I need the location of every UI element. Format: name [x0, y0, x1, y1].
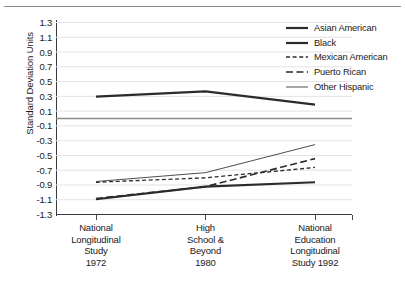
x-category-label-line: Beyond	[151, 245, 259, 257]
y-tick-label: -0.3	[26, 136, 52, 145]
x-category-label-line: School &	[151, 234, 259, 246]
legend-label: Black	[314, 38, 336, 48]
x-tick-mark	[205, 215, 206, 220]
y-tick-label: 0.7	[26, 62, 52, 71]
x-category-label-line: Study 1992	[261, 257, 369, 269]
legend-item[interactable]: Mexican American	[286, 50, 404, 65]
legend-item[interactable]: Puerto Rican	[286, 65, 404, 80]
series-line-0	[96, 91, 315, 104]
x-category-label-line: National	[261, 222, 369, 234]
legend-line-swatch	[286, 82, 308, 92]
x-category-label-line: Study	[42, 245, 150, 257]
legend-line-swatch	[286, 67, 308, 77]
legend-line-swatch	[286, 52, 308, 62]
x-tick-mark	[352, 215, 353, 220]
y-tick-label: 0.9	[26, 47, 52, 56]
legend-item[interactable]: Other Hispanic	[286, 79, 404, 94]
legend-line-swatch	[286, 23, 308, 33]
x-category-label: NationalEducationLongitudinalStudy 1992	[261, 222, 369, 268]
legend-label: Mexican American	[314, 52, 388, 62]
legend-label: Asian American	[314, 23, 377, 33]
x-category-label-line: 1972	[42, 257, 150, 269]
x-category-label-line: High	[151, 222, 259, 234]
y-tick-label: 0.1	[26, 106, 52, 115]
x-category-label-line: National	[42, 222, 150, 234]
x-category-label-line: Education	[261, 234, 369, 246]
legend-item[interactable]: Black	[286, 36, 404, 51]
legend-label: Puerto Rican	[314, 67, 366, 77]
y-tick-label: -0.7	[26, 165, 52, 174]
top-rule-divider	[4, 6, 401, 7]
x-tick-mark	[96, 215, 97, 220]
x-category-label: HighSchool &Beyond1980	[151, 222, 259, 268]
y-tick-label: -0.5	[26, 150, 52, 159]
y-tick-label: 0.5	[26, 77, 52, 86]
y-tick-label: -0.1	[26, 121, 52, 130]
y-tick-label: 1.1	[26, 32, 52, 41]
series-line-4	[96, 145, 315, 182]
x-category-label-line: Longitudinal	[261, 245, 369, 257]
x-category-label-line: 1980	[151, 257, 259, 269]
x-category-label: NationalLongitudinalStudy1972	[42, 222, 150, 268]
y-tick-label: 1.3	[26, 18, 52, 27]
legend-item[interactable]: Asian American	[286, 21, 404, 36]
x-tick-mark	[315, 215, 316, 220]
y-tick-label: -1.3	[26, 210, 52, 219]
legend-label: Other Hispanic	[314, 82, 373, 92]
y-tick-label: -1.1	[26, 195, 52, 204]
x-axis-line	[56, 214, 352, 215]
x-category-label-line: Longitudinal	[42, 234, 150, 246]
legend-line-swatch	[286, 38, 308, 48]
chart-legend: Asian AmericanBlackMexican AmericanPuert…	[286, 21, 404, 94]
y-tick-label: -0.9	[26, 180, 52, 189]
y-tick-label: 0.3	[26, 91, 52, 100]
chart-container: Standard Deviation Units 1.31.10.90.70.5…	[0, 0, 405, 296]
